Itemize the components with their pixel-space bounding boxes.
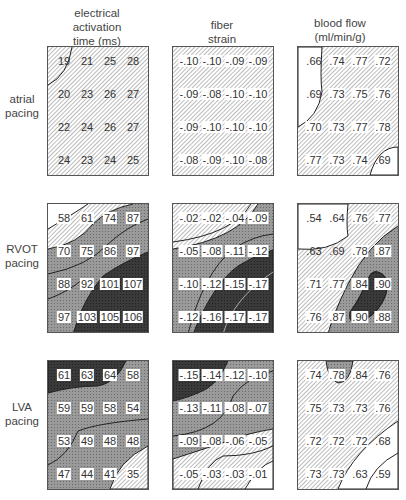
grid-cell-value: 106 xyxy=(123,311,143,323)
grid-cell-value: -.03 xyxy=(225,468,246,480)
label-line: pacing xyxy=(0,256,44,270)
grid-cell-value: .73 xyxy=(351,402,368,414)
grid-cell-value: 27 xyxy=(126,88,140,100)
grid-cell-value: .76 xyxy=(374,402,391,414)
grid-cell-value: .76 xyxy=(374,369,391,381)
grid-cell-value: -.13 xyxy=(179,402,200,414)
grid-cell-value: .70 xyxy=(305,121,322,133)
grid-cell-value: .90 xyxy=(374,278,391,290)
grid-cell-value: 92 xyxy=(80,278,94,290)
grid-cell-value: -.10 xyxy=(225,121,246,133)
grid-cell-value: .74 xyxy=(328,55,345,67)
grid-cell-value: .73 xyxy=(328,88,345,100)
grid-cell-value: 86 xyxy=(103,245,117,257)
grid-cell-value: 87 xyxy=(126,212,140,224)
grid-cell-value: -.15 xyxy=(179,369,200,381)
grid-cell-value: -.09 xyxy=(179,435,200,447)
grid-cell-value: -.08 xyxy=(179,154,200,166)
grid-cell-value: -.12 xyxy=(202,278,223,290)
title-line: (ml/min/g) xyxy=(290,30,390,44)
grid-cell-value: 24 xyxy=(80,121,94,133)
grid-cell-value: 26 xyxy=(103,121,117,133)
grid-cell-value: -.08 xyxy=(248,154,269,166)
grid-cell-value: .76 xyxy=(305,311,322,323)
grid-cell-value: .59 xyxy=(374,468,391,480)
grid-cell-value: .78 xyxy=(351,245,368,257)
grid-cell-value: -.08 xyxy=(202,435,223,447)
label-line: atrial xyxy=(0,92,44,106)
grid-cell-value: .73 xyxy=(328,121,345,133)
grid-cell-value: 27 xyxy=(126,121,140,133)
grid-cell-value: -.17 xyxy=(225,311,246,323)
grid-cell-value: .69 xyxy=(305,88,322,100)
grid-cell-value: 75 xyxy=(80,245,94,257)
grid-cell-value: -.08 xyxy=(202,88,223,100)
grid-cell-value: -.09 xyxy=(248,212,269,224)
grid-cell-value: 107 xyxy=(123,278,143,290)
title-line: blood flow xyxy=(290,16,390,30)
grid-cell-value: 97 xyxy=(57,311,71,323)
grid-cell-value: 47 xyxy=(57,468,71,480)
grid-cell-value: -.17 xyxy=(248,311,269,323)
grid-cell-value: 23 xyxy=(80,88,94,100)
grid-cell-value: .73 xyxy=(328,402,345,414)
grid-cell-value: -.10 xyxy=(179,55,200,67)
grid-cell-value: -.10 xyxy=(179,278,200,290)
grid-cell-value: .84 xyxy=(351,278,368,290)
label-line: RVOT xyxy=(0,242,44,256)
grid-cell-value: -.10 xyxy=(202,55,223,67)
grid-cell-value: .87 xyxy=(328,311,345,323)
grid-cell-value: -.17 xyxy=(248,278,269,290)
column-title-fiber-strain: fiber strain xyxy=(172,18,272,46)
column-title-activation-time: electrical activation time (ms) xyxy=(47,6,147,48)
grid-cell-value: .87 xyxy=(374,245,391,257)
grid-cell-value: -.10 xyxy=(225,88,246,100)
grid-cell-value: 28 xyxy=(126,55,140,67)
grid-cell-value: -.11 xyxy=(225,245,245,257)
grid-cell-value: 25 xyxy=(126,154,140,166)
grid-cell-value: -.05 xyxy=(248,435,269,447)
grid-cell-value: 101 xyxy=(100,278,120,290)
grid-cell-value: -.02 xyxy=(179,212,200,224)
row-label-rvot-pacing: RVOT pacing xyxy=(0,242,44,270)
grid-cell-value: .69 xyxy=(328,245,345,257)
grid-cell-value: 64 xyxy=(103,369,117,381)
grid-cell-value: .69 xyxy=(374,154,391,166)
grid-cell-value: -.09 xyxy=(248,55,269,67)
grid-cell-value: .73 xyxy=(328,468,345,480)
grid-cell-value: 58 xyxy=(57,212,71,224)
label-line: LVA xyxy=(0,400,44,414)
grid-cell-value: .73 xyxy=(328,154,345,166)
grid-cell-value: -.02 xyxy=(202,212,223,224)
grid-cell-value: 41 xyxy=(103,468,117,480)
grid-cell-value: .78 xyxy=(374,121,391,133)
grid-cell-value: .77 xyxy=(351,55,368,67)
grid-cell-value: .78 xyxy=(328,369,345,381)
grid-cell-value: .63 xyxy=(351,468,368,480)
title-line: strain xyxy=(172,32,272,46)
title-line: activation xyxy=(47,20,147,34)
grid-cell-value: 25 xyxy=(103,55,117,67)
column-title-blood-flow: blood flow (ml/min/g) xyxy=(290,16,390,44)
grid-cell-value: 24 xyxy=(57,154,71,166)
grid-cell-value: -.14 xyxy=(202,369,223,381)
grid-cell-value: .71 xyxy=(305,278,322,290)
grid-cell-value: 105 xyxy=(100,311,120,323)
grid-cell-value: 24 xyxy=(103,154,117,166)
grid-cell-value: -.08 xyxy=(225,402,246,414)
grid-cell-value: -.09 xyxy=(202,154,223,166)
grid-cell-value: -.07 xyxy=(248,402,269,414)
grid-cell-value: .72 xyxy=(374,55,391,67)
grid-cell-value: 58 xyxy=(126,369,140,381)
grid-cell-value: .54 xyxy=(305,212,322,224)
grid-cell-value: .76 xyxy=(374,88,391,100)
grid-cell-value: -.11 xyxy=(202,402,222,414)
grid-cell-value: 61 xyxy=(80,212,94,224)
grid-cell-value: -.15 xyxy=(225,278,246,290)
grid-cell-value: .88 xyxy=(374,311,391,323)
grid-cell-value: 103 xyxy=(77,311,97,323)
grid-cell-value: 21 xyxy=(80,55,94,67)
label-line: pacing xyxy=(0,414,44,428)
grid-cell-value: 19 xyxy=(57,55,71,67)
grid-cell-value: -.01 xyxy=(248,468,269,480)
